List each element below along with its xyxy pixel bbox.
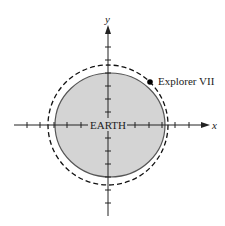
orbit-diagram: EARTH x y Explorer VII — [0, 0, 225, 226]
earth-label: EARTH — [90, 119, 126, 131]
y-axis-label: y — [104, 13, 110, 25]
x-axis-arrow-icon — [201, 122, 210, 128]
satellite-marker-icon — [147, 79, 153, 85]
y-axis-arrow-icon — [105, 25, 111, 34]
satellite-label: Explorer VII — [158, 75, 215, 87]
x-axis-label: x — [211, 119, 217, 131]
